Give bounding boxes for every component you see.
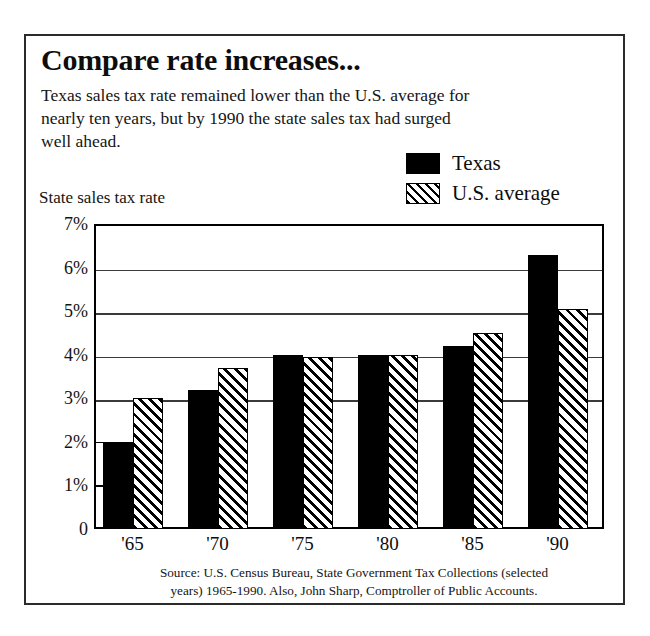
gridline	[96, 400, 602, 401]
legend-label-us-average: U.S. average	[452, 183, 560, 204]
legend-item-texas: Texas	[406, 148, 621, 178]
y-axis-tick-labels: 01%2%3%4%5%6%7%	[36, 224, 88, 529]
gridline	[96, 313, 602, 314]
x-axis-tick-label: '80	[376, 533, 398, 555]
source-line-1: Source: U.S. Census Bureau, State Govern…	[160, 565, 548, 580]
gridlines-group	[96, 226, 602, 527]
y-axis-tick-label: 4%	[42, 344, 88, 365]
legend-item-us-average: U.S. average	[406, 178, 621, 208]
x-axis-tick-label: '65	[121, 533, 143, 555]
y-axis-tick-label: 6%	[42, 257, 88, 278]
y-axis-tick-label: 5%	[42, 301, 88, 322]
y-axis-tick-label: 2%	[42, 431, 88, 452]
plot-area	[94, 224, 604, 529]
legend-label-texas: Texas	[452, 153, 501, 174]
legend-swatch-hatch-icon	[406, 183, 440, 204]
legend-swatch-solid-icon	[406, 153, 440, 174]
chart-deck-text: Texas sales tax rate remained lower than…	[41, 84, 481, 153]
y-axis-tick-mark	[94, 485, 103, 487]
gridline	[96, 270, 602, 271]
y-axis-tick-mark	[94, 442, 103, 444]
gridline	[96, 357, 602, 358]
y-axis-tick-label: 0	[42, 519, 88, 540]
source-note: Source: U.S. Census Bureau, State Govern…	[104, 564, 604, 599]
source-line-2: years) 1965-1990. Also, John Sharp, Comp…	[104, 582, 604, 600]
chart-headline: Compare rate increases...	[41, 44, 601, 76]
y-axis-tick-label: 3%	[42, 388, 88, 409]
x-axis-tick-label: '70	[206, 533, 228, 555]
chart-figure: Compare rate increases... Texas sales ta…	[24, 34, 625, 605]
y-axis-tick-label: 7%	[42, 214, 88, 235]
y-axis-tick-label: 1%	[42, 475, 88, 496]
x-axis-tick-label: '75	[291, 533, 313, 555]
x-axis-tick-label: '85	[461, 533, 483, 555]
x-axis-tick-labels: '65'70'75'80'85'90	[94, 533, 604, 561]
y-axis-title: State sales tax rate	[39, 188, 165, 208]
x-axis-tick-label: '90	[546, 533, 568, 555]
chart-legend: Texas U.S. average	[406, 148, 621, 208]
